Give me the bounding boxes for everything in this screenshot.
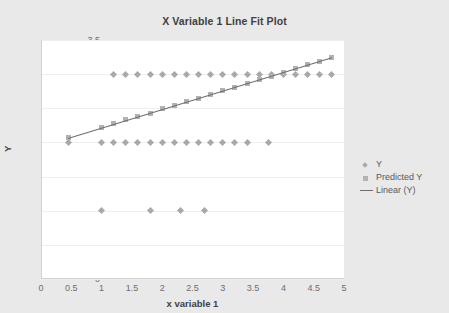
chart-container: X Variable 1 Line Fit Plot Y x variable …	[0, 6, 449, 313]
data-point-y	[304, 71, 311, 78]
data-point-y	[159, 71, 166, 78]
data-point-y	[183, 71, 190, 78]
data-point-y	[195, 139, 202, 146]
truncated-text-fragment-2: ...	[168, 0, 176, 1]
data-point-y	[219, 139, 226, 146]
x-axis-label: x variable 1	[41, 298, 344, 309]
data-point-y	[147, 139, 154, 146]
line-marker-icon	[360, 190, 373, 191]
data-point-y	[177, 207, 184, 214]
data-point-y	[122, 139, 129, 146]
data-point-y	[201, 207, 208, 214]
data-point-y	[147, 71, 154, 78]
x-axis-line	[41, 278, 344, 279]
data-point-y	[219, 71, 226, 78]
data-point-y	[110, 71, 117, 78]
trendline	[68, 57, 332, 139]
gridline	[41, 40, 344, 41]
legend-item[interactable]: Predicted Y	[360, 171, 446, 184]
gridline	[41, 108, 344, 109]
gridline	[41, 211, 344, 212]
legend-item-label: Y	[376, 158, 382, 171]
data-point-y	[265, 139, 272, 146]
data-point-y	[147, 207, 154, 214]
data-point-y	[243, 71, 250, 78]
x-axis-tick-label: 5	[324, 284, 364, 293]
data-point-y	[231, 139, 238, 146]
legend-item[interactable]: Y	[360, 158, 446, 171]
legend-item[interactable]: Linear (Y)	[360, 184, 446, 197]
data-point-y	[171, 139, 178, 146]
square-marker-icon	[363, 176, 368, 181]
data-point-y	[328, 71, 335, 78]
gridline	[41, 245, 344, 246]
data-point-y	[122, 71, 129, 78]
chart-title: X Variable 1 Line Fit Plot	[0, 15, 449, 27]
data-point-y	[207, 139, 214, 146]
truncated-text-fragment-3: ...	[222, 0, 230, 1]
data-point-y	[195, 71, 202, 78]
legend-item-label: Predicted Y	[376, 171, 422, 184]
data-point-y	[171, 71, 178, 78]
y-axis-line	[41, 40, 42, 279]
plot-area	[41, 40, 344, 279]
data-point-y	[134, 71, 141, 78]
data-point-y	[231, 71, 238, 78]
data-point-y	[183, 139, 190, 146]
legend-item-label: Linear (Y)	[376, 184, 416, 197]
gridline	[41, 279, 344, 280]
diamond-marker-icon	[362, 162, 368, 168]
data-point-y	[98, 207, 105, 214]
chart-legend: YPredicted YLinear (Y)	[360, 158, 446, 197]
data-point-y	[207, 71, 214, 78]
truncated-top-text-row: ... ... ...	[0, 0, 449, 5]
data-point-y	[316, 71, 323, 78]
data-point-y	[134, 139, 141, 146]
data-point-y	[292, 71, 299, 78]
data-point-y	[110, 139, 117, 146]
data-point-y	[159, 139, 166, 146]
data-point-y	[243, 139, 250, 146]
gridline	[41, 142, 344, 143]
data-point-y	[98, 139, 105, 146]
gridline	[41, 177, 344, 178]
truncated-text-fragment-1: ...	[76, 0, 84, 1]
y-axis-label: Y	[2, 146, 13, 152]
